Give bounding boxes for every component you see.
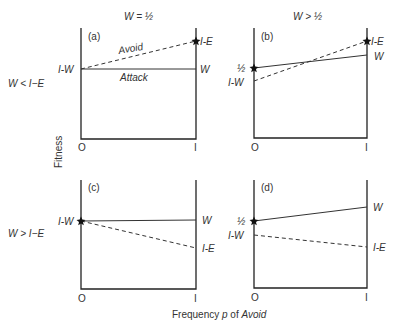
panel-b: (b) ½ I-W I-E W O I (228, 28, 385, 153)
panel-b-x-tick-0: O (251, 142, 259, 153)
panel-a-right-label-w: W (200, 64, 211, 75)
column-header-right: W > ½ (293, 11, 323, 22)
panel-c-attack-line (81, 220, 196, 221)
x-axis-label: Frequency p of Avoid (172, 309, 267, 320)
panel-d-x-tick-0: O (251, 292, 259, 303)
panel-a: (a) Avoid Attack I-W I-E W O I (58, 28, 213, 153)
row-label-bottom: W > I−E (8, 228, 44, 239)
panel-b-left-label-half: ½ (237, 63, 246, 74)
panel-d-right-label-1me: I-E (373, 242, 386, 253)
panel-c-right-label-w: W (202, 215, 213, 226)
panel-d-avoid-line (254, 235, 367, 247)
panel-b-label: (b) (261, 31, 273, 42)
panel-c: (c) I-W W I-E O I (58, 180, 215, 304)
panel-d-attack-line (254, 207, 367, 221)
panel-b-frame (254, 28, 367, 138)
panel-c-avoid-line (81, 221, 196, 248)
panel-a-attack-label: Attack (119, 72, 149, 83)
row-label-top: W < I−E (8, 78, 44, 89)
panel-a-label: (a) (88, 31, 100, 42)
x-axis-label-mid: of (228, 309, 242, 320)
x-axis-label-prefix: Frequency (172, 309, 222, 320)
panel-b-avoid-line (254, 41, 367, 81)
panel-d-right-label-w: W (373, 202, 384, 213)
panel-c-x-tick-0: O (78, 293, 86, 304)
panel-b-right-label-1me: I-E (371, 36, 384, 47)
panel-d-left-label-half: ½ (237, 216, 246, 227)
panel-d-left-label-1mw: I-W (228, 230, 245, 241)
panel-a-x-tick-1: I (194, 142, 197, 153)
y-axis-label: Fitness (53, 136, 64, 168)
column-header-left: W = ½ (124, 11, 154, 22)
fitness-diagram: W = ½ W > ½ W < I−E W > I−E Fitness (a) … (0, 0, 396, 324)
panel-b-x-tick-1: I (365, 142, 368, 153)
panel-a-right-label-1me: I-E (200, 36, 213, 47)
x-axis-label-strategy: Avoid (241, 309, 267, 320)
panel-c-right-label-1me: I-E (202, 243, 215, 254)
panel-a-left-label-1mw: I-W (58, 64, 75, 75)
panel-d-x-tick-1: I (365, 292, 368, 303)
panel-d-label: (d) (261, 182, 273, 193)
panel-a-avoid-label: Avoid (116, 41, 144, 56)
panel-d: (d) ½ I-W W I-E O I (228, 180, 386, 303)
panel-c-x-tick-1: I (194, 293, 197, 304)
panel-b-right-label-w: W (374, 51, 385, 62)
panel-d-frame (254, 180, 367, 288)
panel-a-x-tick-0: O (78, 142, 86, 153)
panel-c-left-label-1mw: I-W (58, 216, 75, 227)
panel-c-label: (c) (88, 182, 100, 193)
panel-b-left-label-1mw: I-W (228, 77, 245, 88)
